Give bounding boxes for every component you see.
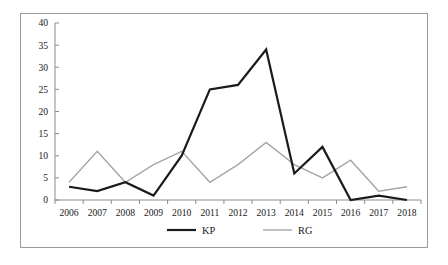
y-tick-label: 30 — [38, 62, 48, 73]
x-tick-label: 2018 — [397, 207, 416, 218]
x-tick-label: 2012 — [228, 207, 247, 218]
x-tick-label: 2013 — [257, 207, 276, 218]
x-tick-label: 2016 — [341, 207, 360, 218]
data-series-group — [69, 50, 407, 200]
legend-label-kp: KP — [202, 225, 216, 236]
y-axis-tick-labels: 0510152025303540 — [38, 17, 48, 205]
x-tick-label: 2011 — [200, 207, 219, 218]
y-tick-label: 0 — [43, 194, 48, 205]
x-tick-label: 2008 — [116, 207, 135, 218]
x-tick-label: 2010 — [172, 207, 191, 218]
y-tick-label: 5 — [43, 172, 48, 183]
x-tick-label: 2017 — [369, 207, 388, 218]
y-tick-label: 25 — [38, 84, 48, 95]
x-axis-tick-marks — [55, 200, 421, 204]
x-tick-label: 2007 — [88, 207, 107, 218]
x-tick-label: 2009 — [144, 207, 163, 218]
y-tick-label: 10 — [38, 150, 48, 161]
figure-root: 0510152025303540 20062007200820092010201… — [0, 0, 448, 265]
y-tick-label: 35 — [38, 40, 48, 51]
legend-label-rg: RG — [298, 225, 313, 236]
chart-legend: KPRG — [167, 225, 313, 236]
x-tick-label: 2015 — [313, 207, 332, 218]
chart-frame: 0510152025303540 20062007200820092010201… — [20, 13, 428, 248]
y-tick-label: 20 — [38, 106, 48, 117]
y-tick-label: 40 — [38, 17, 48, 28]
line-chart: 0510152025303540 20062007200820092010201… — [21, 14, 427, 247]
x-tick-label: 2006 — [59, 207, 78, 218]
x-axis-tick-labels: 2006200720082009201020112012201320142015… — [59, 207, 416, 218]
x-tick-label: 2014 — [285, 207, 304, 218]
y-tick-label: 15 — [38, 128, 48, 139]
y-axis-tick-marks — [55, 23, 59, 200]
series-line-kp — [69, 50, 407, 200]
